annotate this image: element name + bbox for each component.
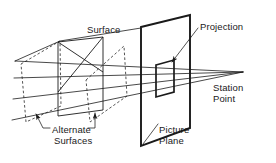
label-alternate-surfaces: Surfaces <box>54 136 92 147</box>
label-station-point-line2: Point <box>213 93 235 104</box>
projection-ray-group <box>12 61 243 120</box>
alternate-surface-left-outline <box>21 41 61 122</box>
alternate-surface-center <box>86 46 127 122</box>
alternate-surface-left <box>21 41 61 122</box>
surface-diagonal-upper <box>58 42 103 72</box>
surface-diagonal-lower <box>58 37 103 92</box>
label-alternate: Alternate <box>52 125 91 136</box>
label-station-point: StationPoint <box>213 83 243 104</box>
projection-ray-upper-mid <box>14 72 243 78</box>
label-projection: Projection <box>200 22 243 33</box>
label-station-point-line1: Station <box>213 82 243 93</box>
projection-ray-top <box>15 61 243 72</box>
label-picture-plane-line2: Plane <box>159 135 184 146</box>
label-picture-plane-line1: Picture <box>159 124 189 135</box>
projection-ray-lower-mid <box>13 72 243 99</box>
perspective-projection-diagram: Surface Projection StationPoint PictureP… <box>0 0 276 163</box>
label-surface: Surface <box>87 25 120 36</box>
alternate-surface-center-outline <box>86 46 127 122</box>
projection-leader-line <box>172 28 198 62</box>
projection-rect-outline <box>156 60 174 97</box>
surface-bottom-connector <box>58 110 103 116</box>
projection-rect <box>156 60 174 97</box>
label-picture-plane: PicturePlane <box>159 125 189 146</box>
